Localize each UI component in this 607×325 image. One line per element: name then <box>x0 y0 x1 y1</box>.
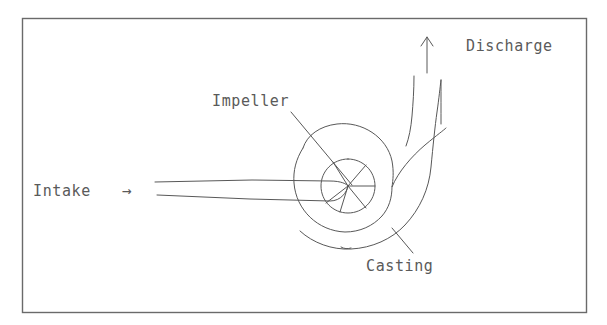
discharge-pipe-left-wall <box>406 76 414 146</box>
diagram-frame-border <box>23 19 587 313</box>
discharge-pipe-shape <box>406 76 441 146</box>
intake-label: Intake <box>33 182 91 200</box>
casting-leader-line <box>392 228 413 253</box>
volute-outer-wall <box>300 80 441 249</box>
volute-upper-inner-wall <box>303 124 446 187</box>
casting-label: Casting <box>366 257 433 275</box>
diagram-canvas: Intake → Impeller Casting Discharge <box>0 0 607 325</box>
impeller-blade-southwest <box>326 186 348 203</box>
discharge-label: Discharge <box>466 37 553 55</box>
intake-pipe-lower-wall <box>157 186 348 201</box>
impeller-blade-southeast <box>348 186 366 208</box>
intake-arrow-icon: → <box>122 181 132 200</box>
volute-housing-throat <box>382 187 392 216</box>
casing-sketch-tick <box>341 247 351 249</box>
pump-diagram-svg: Intake → Impeller Casting Discharge <box>0 0 607 325</box>
intake-pipe-shape <box>155 180 348 201</box>
impeller-leader-line <box>291 112 352 185</box>
volute-casing-shape <box>294 80 446 249</box>
discharge-flow-arrow-icon <box>421 37 433 73</box>
intake-pipe-upper-wall <box>155 180 348 186</box>
impeller-label: Impeller <box>212 92 289 110</box>
